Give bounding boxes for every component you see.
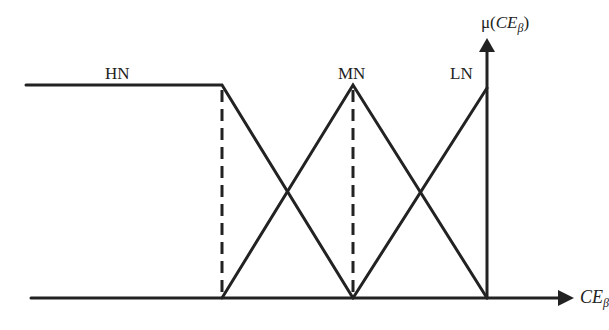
x-axis-arrowhead-icon — [558, 290, 574, 306]
hn-membership-line — [26, 85, 353, 298]
mn-label: MN — [338, 64, 365, 84]
x-axis-label: CEβ — [580, 287, 609, 311]
hn-label: HN — [105, 64, 130, 84]
y-axis-arrowhead-icon — [479, 38, 495, 52]
ln-label: LN — [450, 64, 473, 84]
y-axis-label: μ(CEβ) — [481, 13, 529, 36]
